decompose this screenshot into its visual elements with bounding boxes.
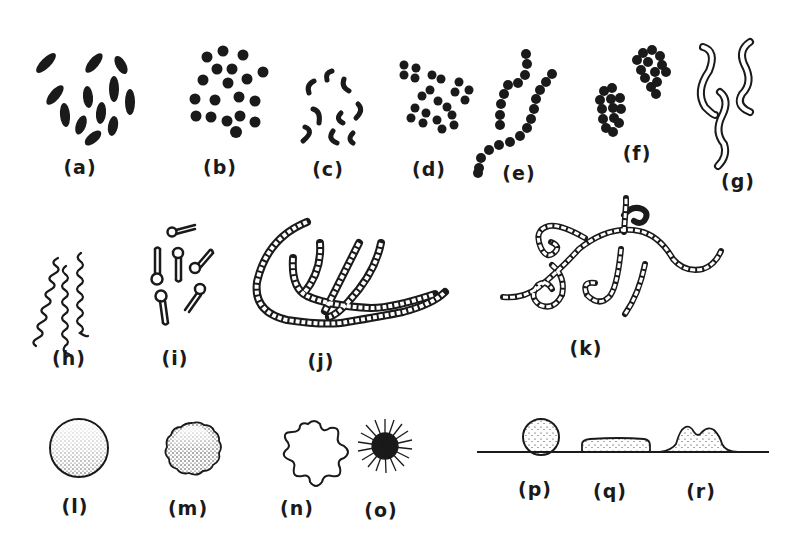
label-h: (h) (52, 347, 86, 369)
panel-e-streptococci-icon (473, 49, 557, 178)
label-c: (c) (312, 158, 344, 180)
label-l: (l) (62, 495, 89, 517)
label-q: (q) (593, 480, 627, 502)
label-j: (j) (308, 350, 335, 372)
panel-f-staphylococci-icon (595, 45, 671, 137)
panel-p-convex-colony-icon (523, 419, 559, 455)
label-r: (r) (686, 480, 716, 502)
label-d: (d) (412, 158, 446, 180)
panel-i-spore-former-icon (152, 225, 214, 325)
bacteria-morphology-diagram: (a) (b) (c) (d) (e) (f) (g) (h) (i) (j) … (0, 0, 810, 553)
label-p: (p) (518, 478, 552, 500)
panel-k-coiled-filament-icon (503, 198, 721, 314)
label-k: (k) (569, 337, 602, 359)
panel-j-branching-filament-icon (257, 222, 445, 324)
panel-pqr-colony-elevation-icon (477, 419, 769, 455)
label-f: (f) (623, 142, 652, 164)
diagram-illustrations (0, 0, 810, 553)
panel-n-undulate-colony-icon (284, 421, 348, 486)
panel-m-rough-colony-icon (165, 422, 221, 474)
panel-l-circular-colony-icon (50, 419, 108, 477)
panel-c-vibrio-icon (303, 71, 361, 143)
label-n: (n) (280, 497, 314, 519)
label-g: (g) (721, 170, 755, 192)
panel-a-bacilli-icon (33, 50, 135, 148)
label-b: (b) (203, 156, 237, 178)
panel-r-umbonate-colony-icon (660, 427, 738, 452)
label-m: (m) (168, 497, 208, 519)
panel-q-flat-colony-icon (582, 438, 650, 452)
panel-d-diplococci-icon (400, 61, 474, 134)
label-i: (i) (162, 347, 189, 369)
label-o: (o) (364, 499, 397, 521)
label-a: (a) (63, 156, 96, 178)
panel-b-cocci-icon (190, 46, 269, 139)
panel-o-filamentous-colony-icon (358, 419, 412, 473)
panel-h-spirochete-icon (33, 253, 88, 354)
label-e: (e) (502, 162, 535, 184)
